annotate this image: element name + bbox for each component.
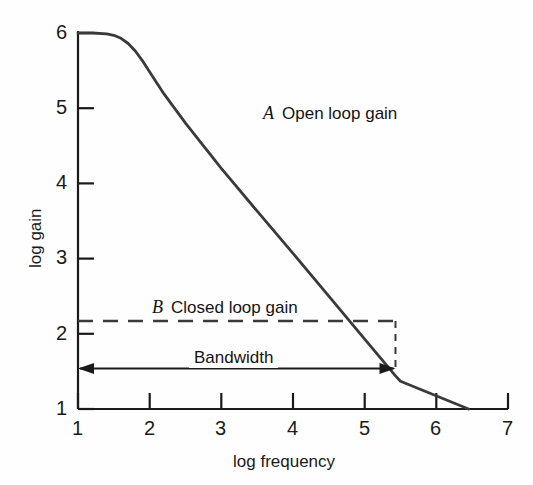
x-tick-label-6: 6 [430, 418, 441, 438]
x-tick-label-4: 4 [287, 418, 298, 438]
series-b-text: Closed loop gain [171, 298, 298, 317]
y-axis-title: log gain [26, 208, 46, 268]
series-b-label: BClosed loop gain [152, 297, 298, 318]
series-b-key: B [152, 297, 171, 317]
x-axis-ticks [78, 393, 508, 409]
x-tick-label-5: 5 [359, 418, 370, 438]
series-a-text: Open loop gain [282, 104, 397, 123]
x-tick-label-3: 3 [215, 418, 226, 438]
bandwidth-annotation-label: Bandwidth [189, 348, 278, 368]
chart-figure: 6 5 4 3 2 1 1 2 3 4 5 6 7 log gain log f… [0, 0, 533, 485]
x-axis-title: log frequency [233, 452, 335, 472]
series-a-key: A [263, 103, 282, 123]
axis-lines [78, 31, 508, 409]
plot-canvas [0, 0, 533, 485]
y-tick-label-3: 3 [56, 247, 67, 267]
y-tick-label-6: 6 [56, 22, 67, 42]
y-axis-ticks [78, 33, 94, 409]
x-tick-label-2: 2 [144, 418, 155, 438]
y-tick-label-2: 2 [56, 323, 67, 343]
y-tick-label-1: 1 [56, 398, 67, 418]
series-a-label: AOpen loop gain [263, 103, 397, 124]
x-tick-label-7: 7 [502, 418, 513, 438]
bandwidth-arrowhead-left [78, 363, 94, 374]
y-tick-label-4: 4 [56, 172, 67, 192]
y-tick-label-5: 5 [56, 97, 67, 117]
x-tick-label-1: 1 [72, 418, 83, 438]
